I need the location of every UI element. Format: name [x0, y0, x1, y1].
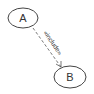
arrowhead-icon	[56, 61, 61, 67]
use-case-b[interactable]: B	[54, 66, 86, 88]
use-case-a-label: A	[19, 12, 27, 24]
include-stereotype-label: «include»	[42, 29, 64, 56]
use-case-a[interactable]: A	[8, 8, 38, 28]
use-case-diagram: A B «include»	[0, 0, 94, 94]
use-case-b-label: B	[66, 71, 73, 83]
include-relationship[interactable]: «include»	[33, 28, 64, 67]
